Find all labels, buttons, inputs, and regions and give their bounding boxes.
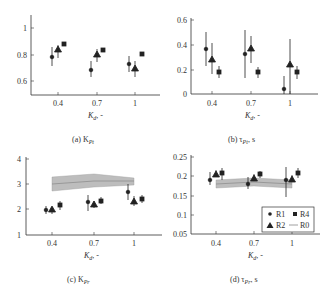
x-tick: 0.4 — [53, 99, 63, 108]
y-tick: 1 — [17, 231, 21, 240]
y-tick: 0 — [183, 90, 187, 99]
x-axis-label: Kd, - — [247, 251, 263, 261]
x-tick: 0.4 — [47, 239, 57, 248]
y-tick: 2 — [17, 205, 21, 214]
r0-band — [52, 174, 134, 191]
caption-c: (c) KPr — [67, 275, 90, 285]
x-tick: 1 — [133, 99, 137, 108]
x-tick: 0.7 — [249, 239, 259, 248]
panel-b: 0.6 0.4 0.2 0 0.4 0.7 1 Kd, - (b) τPt, s — [177, 16, 318, 145]
legend-r4: R4 — [300, 210, 309, 219]
y-tick: 0.15 — [173, 192, 187, 201]
x-axis-label: Kd, - — [244, 111, 260, 121]
x-tick: 0.7 — [246, 99, 256, 108]
legend-r0: R0 — [300, 221, 309, 230]
x-tick: 0.7 — [92, 99, 102, 108]
x-tick: 1 — [132, 239, 136, 248]
x-axis-label: Kd, - — [83, 251, 99, 261]
x-tick: 1 — [288, 99, 292, 108]
legend-r1: R1 — [276, 210, 285, 219]
y-tick: 0.1 — [177, 211, 187, 220]
y-tick: 0.05 — [173, 230, 187, 239]
caption-a: (a) KPt — [72, 135, 94, 145]
y-tick: 0.25 — [173, 153, 187, 162]
panel-d: 0.25 0.2 0.15 0.1 0.05 0.4 0.7 1 Kd, - (… — [173, 153, 320, 285]
panel-c: 4 3 2 1 0.4 0.7 1 Kd, - (c) KPr — [17, 155, 162, 285]
x-tick: 0.7 — [89, 239, 99, 248]
x-tick: 0.4 — [211, 239, 221, 248]
y-tick: 0.6 — [177, 16, 187, 25]
y-tick: 4 — [17, 155, 21, 164]
x-tick: 0.4 — [207, 99, 217, 108]
caption-b: (b) τPt, s — [228, 135, 255, 145]
y-tick: 0.2 — [177, 172, 187, 181]
y-tick: 0.4 — [177, 41, 187, 50]
r1-marker-icon — [268, 212, 272, 216]
figure: 1 0.8 0.6 0.4 0.7 1 Kd, - (a) KPt — [0, 0, 330, 292]
x-axis-label: Kd, - — [87, 111, 103, 121]
x-tick: 1 — [290, 239, 294, 248]
y-tick: 1 — [23, 24, 27, 33]
y-tick: 3 — [17, 180, 21, 189]
y-tick: 0.6 — [17, 77, 27, 86]
panel-a: 1 0.8 0.6 0.4 0.7 1 Kd, - (a) KPt — [17, 15, 160, 145]
y-tick: 0.2 — [177, 66, 187, 75]
caption-d: (d) τPr, s — [230, 275, 258, 285]
r4-marker-icon — [293, 212, 297, 216]
y-tick: 0.8 — [17, 51, 27, 60]
legend-r2: R2 — [276, 221, 285, 230]
legend: R1 R4 R2 R0 — [262, 207, 314, 232]
